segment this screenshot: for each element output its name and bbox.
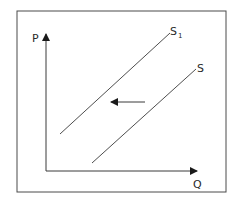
supply-shift-diagram: P Q S1 S xyxy=(0,0,232,205)
curve-label-s-main: S xyxy=(197,62,204,75)
supply-curve-s xyxy=(92,69,196,163)
supply-curve-s1 xyxy=(60,33,170,134)
diagram-canvas xyxy=(0,0,232,205)
x-axis-label: Q xyxy=(193,179,202,190)
curve-label-s: S xyxy=(197,63,204,74)
y-axis-label: P xyxy=(32,33,39,44)
curve-label-s1-subscript: 1 xyxy=(178,32,182,40)
curve-label-s1: S1 xyxy=(170,26,181,37)
curve-label-s1-main: S xyxy=(170,25,177,38)
